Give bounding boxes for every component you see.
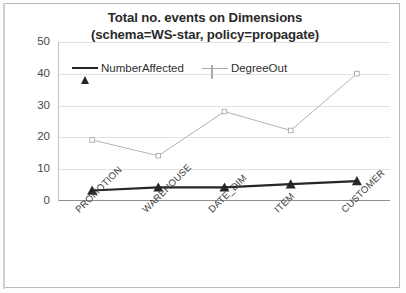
chart-legend: NumberAffected DegreeOut: [72, 62, 287, 74]
legend-marker-degree-out: [202, 63, 228, 73]
legend-entry-degree-out: DegreeOut: [202, 62, 287, 74]
series-degreeout: [90, 71, 359, 158]
legend-entry-number-affected: NumberAffected: [72, 62, 184, 74]
y-axis-tick-20: 20: [4, 131, 50, 142]
data-point-degreeout-2: [222, 109, 227, 114]
legend-label-number-affected: NumberAffected: [101, 62, 184, 74]
chart-container: Total no. events on Dimensions (schema=W…: [0, 0, 406, 293]
chart-title-line-1: Total no. events on Dimensions: [108, 10, 303, 25]
y-axis-tick-0: 0: [4, 195, 50, 206]
y-axis-tick-40: 40: [4, 68, 50, 79]
legend-marker-number-affected: [72, 63, 98, 73]
y-axis-tick-30: 30: [4, 100, 50, 111]
y-axis-tick-50: 50: [4, 36, 50, 47]
data-point-degreeout-3: [288, 128, 293, 133]
legend-label-degree-out: DegreeOut: [231, 62, 287, 74]
data-point-degreeout-0: [90, 138, 95, 143]
data-point-degreeout-4: [355, 71, 360, 76]
data-point-degreeout-1: [156, 153, 161, 158]
chart-title: Total no. events on Dimensions (schema=W…: [40, 9, 370, 43]
chart-title-line-2: (schema=WS-star, policy=propagate): [40, 26, 370, 43]
y-axis-tick-10: 10: [4, 163, 50, 174]
